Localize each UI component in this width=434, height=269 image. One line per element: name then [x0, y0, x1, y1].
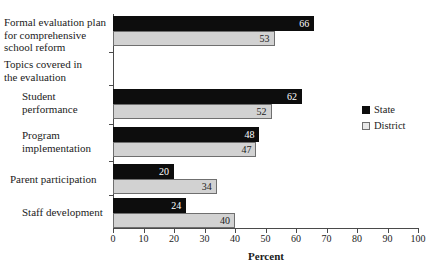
bar-value: 66	[299, 19, 309, 29]
bar-state-staff-development[interactable]: 24	[113, 198, 186, 213]
chart-legend: State District	[362, 104, 406, 136]
bar-value: 20	[159, 167, 169, 177]
x-axis-tick-label: 50	[251, 233, 281, 244]
legend-swatch-district-icon	[362, 122, 370, 130]
axis-group-tick	[109, 161, 113, 162]
chart-title	[0, 0, 434, 2]
axis-group-tick	[109, 195, 113, 196]
bar-district-program-implementation[interactable]: 47	[113, 142, 256, 157]
category-label-student-performance: Student performance	[4, 90, 130, 115]
category-label-line: for comprehensive	[4, 29, 112, 42]
x-axis-tick-label: 70	[312, 233, 342, 244]
bar-state-student-performance[interactable]: 62	[113, 89, 302, 104]
axis-group-tick	[109, 85, 113, 86]
axis-group-tick	[109, 124, 113, 125]
legend-label-district: District	[374, 120, 406, 131]
category-label-line: Formal evaluation plan	[4, 16, 112, 29]
bar-district-parent-participation[interactable]: 34	[113, 179, 217, 194]
bar-value: 34	[202, 182, 212, 192]
x-axis-tick-label: 0	[98, 233, 128, 244]
bar-chart: Formal evaluation plan for comprehensive…	[0, 0, 434, 269]
section-header-line: the evaluation	[4, 71, 112, 84]
bar-state-program-implementation[interactable]: 48	[113, 127, 259, 142]
category-label-program-implementation: Program implementation	[4, 129, 130, 154]
category-label-line: school reform	[4, 41, 112, 54]
bar-value: 47	[241, 145, 251, 155]
bar-district-staff-development[interactable]: 40	[113, 213, 235, 228]
axis-group-tick	[109, 52, 113, 53]
bar-state-parent-participation[interactable]: 20	[113, 164, 174, 179]
section-header-topics-covered: Topics covered in the evaluation	[4, 58, 112, 83]
legend-item-state[interactable]: State	[362, 104, 406, 115]
bar-district-student-performance[interactable]: 52	[113, 104, 272, 119]
bar-value: 62	[287, 92, 297, 102]
section-header-line: Topics covered in	[4, 58, 112, 71]
legend-item-district[interactable]: District	[362, 120, 406, 131]
category-label-parent-participation: Parent participation	[4, 173, 118, 186]
bar-value: 40	[220, 216, 230, 226]
x-axis-tick-label: 100	[403, 233, 433, 244]
x-axis-tick-label: 80	[342, 233, 372, 244]
legend-label-state: State	[374, 104, 395, 115]
bar-value: 24	[171, 201, 181, 211]
y-axis-line	[113, 14, 114, 229]
bar-value: 52	[257, 107, 267, 117]
x-axis-tick-label: 30	[190, 233, 220, 244]
category-label-line: Parent participation	[10, 173, 118, 186]
x-axis-tick-label: 90	[373, 233, 403, 244]
x-axis-tick-label: 60	[281, 233, 311, 244]
x-axis-tick-label: 40	[220, 233, 250, 244]
bar-value: 53	[260, 34, 270, 44]
x-axis-tick-label: 20	[159, 233, 189, 244]
x-axis-title: Percent	[113, 250, 419, 262]
bar-value: 48	[244, 130, 254, 140]
category-label-formal-evaluation-plan: Formal evaluation plan for comprehensive…	[4, 16, 112, 54]
legend-swatch-state-icon	[362, 106, 370, 114]
bar-district-formal-evaluation-plan[interactable]: 53	[113, 31, 275, 46]
bar-state-formal-evaluation-plan[interactable]: 66	[113, 16, 314, 31]
category-label-staff-development: Staff development	[4, 206, 130, 219]
x-axis-tick-label: 10	[129, 233, 159, 244]
